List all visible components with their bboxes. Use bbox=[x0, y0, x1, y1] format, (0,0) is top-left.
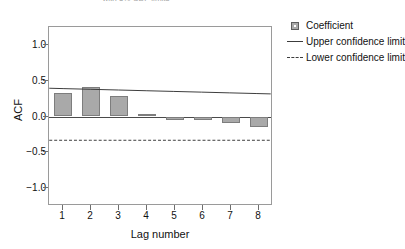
acf-bar-lag-3 bbox=[110, 96, 127, 116]
acf-bar-lag-6 bbox=[194, 117, 211, 121]
y-tick-label: 0.0 bbox=[12, 110, 46, 121]
plot-area bbox=[48, 26, 272, 205]
legend-label-upper-confidence-limit: Upper confidence limit bbox=[306, 36, 405, 48]
x-tick-label: 5 bbox=[164, 210, 184, 221]
y-tick-label: 1.0 bbox=[12, 38, 46, 49]
x-tick-mark bbox=[174, 205, 175, 210]
y-tick-label: −1.0 bbox=[12, 182, 46, 193]
x-tick-label: 1 bbox=[52, 210, 72, 221]
y-tick-label: 0.5 bbox=[12, 74, 46, 85]
legend-item-upper-confidence-limit: Upper confidence limit bbox=[284, 34, 402, 49]
x-tick-mark bbox=[258, 205, 259, 210]
legend-item-lower-confidence-limit: Lower confidence limit bbox=[284, 50, 402, 65]
dashed-line-swatch-icon bbox=[284, 52, 306, 64]
acf-bar-lag-8 bbox=[250, 117, 267, 128]
chart-title: with 5% CDF limits bbox=[0, 0, 272, 2]
acf-bar-lag-2 bbox=[82, 87, 99, 116]
x-tick-label: 3 bbox=[108, 210, 128, 221]
x-tick-label: 6 bbox=[192, 210, 212, 221]
x-tick-label: 8 bbox=[248, 210, 268, 221]
acf-bar-lag-4 bbox=[138, 114, 155, 116]
x-tick-label: 4 bbox=[136, 210, 156, 221]
chart-legend: Coefficient Upper confidence limit Lower… bbox=[284, 18, 402, 66]
x-tick-mark bbox=[118, 205, 119, 210]
x-tick-mark bbox=[230, 205, 231, 210]
coefficient-swatch-icon bbox=[284, 20, 306, 32]
x-axis-label: Lag number bbox=[48, 228, 272, 240]
legend-label-lower-confidence-limit: Lower confidence limit bbox=[306, 52, 405, 64]
x-tick-mark bbox=[202, 205, 203, 210]
x-tick-label: 7 bbox=[220, 210, 240, 221]
x-tick-mark bbox=[62, 205, 63, 210]
x-tick-mark bbox=[90, 205, 91, 210]
solid-line-swatch-icon bbox=[284, 36, 306, 48]
x-tick-mark bbox=[146, 205, 147, 210]
legend-label-coefficient: Coefficient bbox=[306, 20, 353, 32]
acf-bar-lag-7 bbox=[222, 117, 239, 123]
y-tick-label: −0.5 bbox=[12, 146, 46, 157]
acf-bar-lag-1 bbox=[54, 93, 71, 117]
acf-bar-lag-5 bbox=[166, 117, 183, 121]
x-tick-label: 2 bbox=[80, 210, 100, 221]
legend-item-coefficient: Coefficient bbox=[284, 18, 402, 33]
